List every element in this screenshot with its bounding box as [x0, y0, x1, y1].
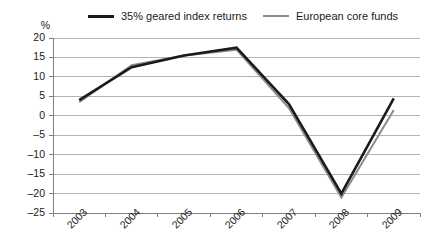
gridlines-group — [53, 38, 420, 213]
y-tick-label: –5 — [19, 129, 45, 140]
series-line-geared-index-returns — [79, 48, 394, 194]
series-lines-group — [79, 48, 394, 198]
y-tick-label: 15 — [19, 51, 45, 62]
chart-container: 35% geared index returns European core f… — [0, 0, 441, 249]
plot-svg — [0, 0, 441, 249]
y-tick-label: 20 — [19, 32, 45, 43]
y-tick-label: –10 — [19, 149, 45, 160]
plot-area — [0, 0, 441, 249]
y-tick-label: 0 — [19, 110, 45, 121]
y-tick-label: –15 — [19, 168, 45, 179]
y-tick-label: –20 — [19, 188, 45, 199]
y-tick-label: –25 — [19, 207, 45, 218]
axis-lines-group — [49, 38, 420, 213]
y-tick-label: 10 — [19, 71, 45, 82]
y-tick-label: 5 — [19, 90, 45, 101]
